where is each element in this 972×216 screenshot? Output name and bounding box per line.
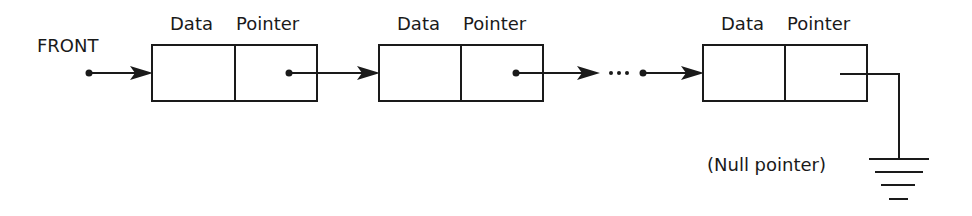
node-2-pointer-label: Pointer [463, 14, 526, 34]
node-1-pointer-label: Pointer [236, 14, 299, 34]
node-1-data-label: Data [170, 14, 213, 34]
null-pointer-line [840, 74, 899, 159]
dot-icon [640, 70, 647, 77]
node-2-data-label: Data [397, 14, 440, 34]
ground-symbol-icon [869, 159, 929, 199]
node-3-pointer-label: Pointer [787, 14, 850, 34]
front-label: FRONT [37, 36, 99, 56]
dot-icon [286, 70, 293, 77]
null-pointer-label: (Null pointer) [707, 155, 826, 175]
dot-icon [86, 70, 93, 77]
node-3-data-label: Data [721, 14, 764, 34]
ellipsis-icon [609, 71, 629, 75]
dot-icon [513, 70, 520, 77]
